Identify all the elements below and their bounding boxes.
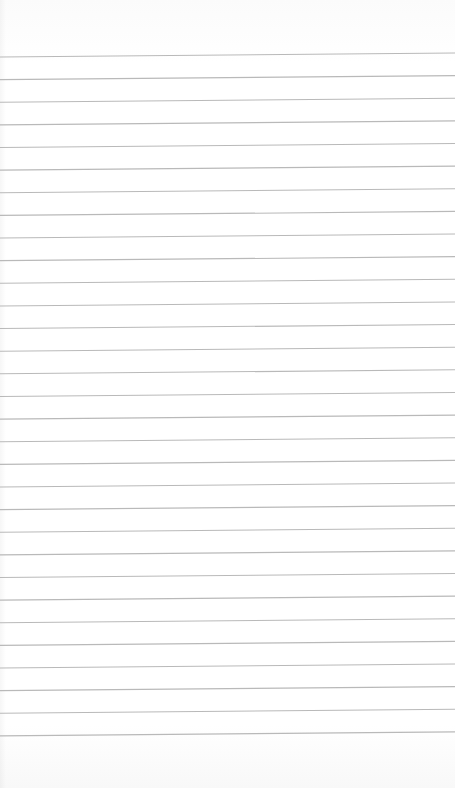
ruled-line — [0, 144, 455, 148]
ruled-line — [0, 302, 455, 306]
ruled-line — [0, 438, 455, 442]
ruled-line — [0, 121, 455, 125]
ruled-line — [0, 732, 455, 736]
ruled-line — [0, 234, 455, 238]
ruled-line — [0, 687, 455, 691]
ruled-line — [0, 528, 455, 532]
ruled-line — [0, 211, 455, 215]
ruled-line — [0, 166, 455, 170]
ruled-line — [0, 551, 455, 555]
ruled-line — [0, 257, 455, 261]
ruled-line — [0, 98, 455, 102]
ruled-line — [0, 325, 455, 329]
ruled-line — [0, 347, 455, 351]
ruled-line — [0, 76, 455, 80]
ruled-line — [0, 483, 455, 487]
ruled-line — [0, 370, 455, 374]
ruled-line — [0, 189, 455, 193]
ruled-line — [0, 664, 455, 668]
ruled-line — [0, 709, 455, 713]
ruled-line — [0, 279, 455, 283]
ruled-line — [0, 596, 455, 600]
ruled-line — [0, 619, 455, 623]
ruled-line — [0, 506, 455, 510]
ruled-line — [0, 415, 455, 419]
ruled-line — [0, 392, 455, 396]
ruled-lines — [0, 0, 455, 788]
ruled-line — [0, 641, 455, 645]
ruled-line — [0, 53, 455, 57]
ruled-line — [0, 460, 455, 464]
ruled-line — [0, 573, 455, 577]
lined-paper-page — [0, 0, 455, 788]
